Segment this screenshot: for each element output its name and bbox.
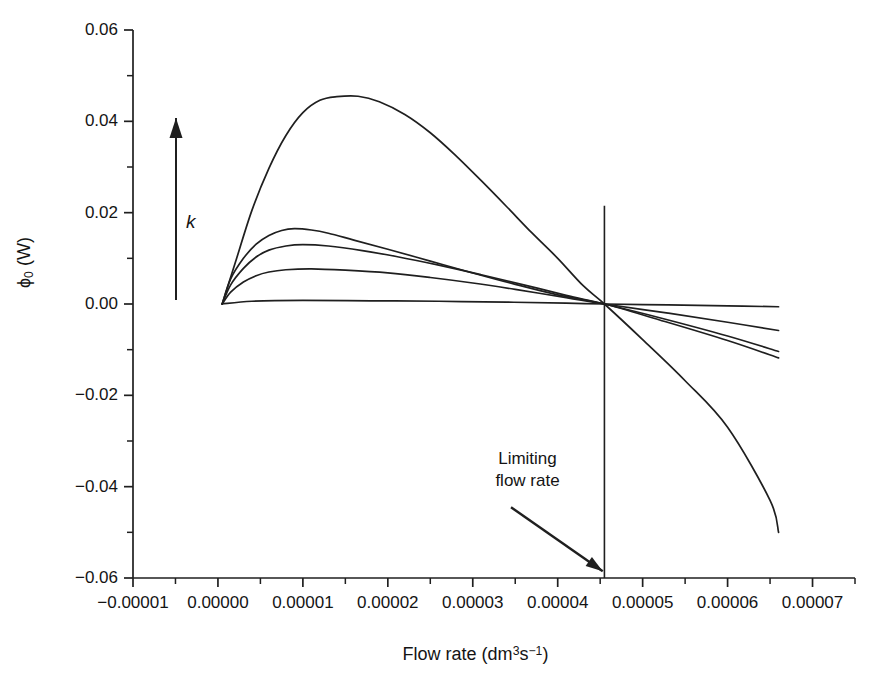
x-axis-label: Flow rate (dm3s−1): [0, 643, 873, 665]
x-axis-tick-label: 0.00001: [272, 593, 333, 613]
y-axis-label: ϕ0 (W): [14, 237, 36, 288]
y-axis-tick-label: −0.04: [0, 477, 118, 497]
data-line-k5: [222, 300, 778, 306]
y-axis-tick-label: 0.04: [0, 111, 118, 131]
limiting-flow-rate-arrow-head: [586, 557, 603, 571]
y-axis-label-symbol: ϕ: [14, 278, 34, 288]
data-line-k3: [222, 245, 778, 352]
y-axis-tick-label: 0.00: [0, 294, 118, 314]
x-axis-tick-label: 0.00002: [357, 593, 418, 613]
annotation-line-1: Limiting: [440, 448, 615, 470]
x-axis-tick-label: 0.00005: [612, 593, 673, 613]
limiting-flow-rate-annotation: Limiting flow rate: [440, 448, 615, 493]
x-axis-tick-label: 0.00007: [782, 593, 843, 613]
annotation-arrows: [170, 118, 603, 571]
y-axis-label-subscript: 0: [22, 271, 36, 278]
x-axis-label-text: Flow rate (dm: [403, 644, 513, 664]
y-axis-label-unit: (W): [14, 237, 34, 271]
y-axis-tick-label: −0.02: [0, 385, 118, 405]
k-direction-arrow-head: [170, 118, 183, 138]
x-axis-tick-label: 0.00003: [442, 593, 503, 613]
y-axis-tick-label: −0.06: [0, 568, 118, 588]
plot-canvas: [0, 0, 873, 691]
x-axis-tick-label: 0.00000: [187, 593, 248, 613]
x-axis-label-sup-minus1: −1: [528, 643, 542, 657]
y-axis-tick-label: 0.06: [0, 20, 118, 40]
chart-figure: ϕ0 (W) Flow rate (dm3s−1) k Limiting flo…: [0, 0, 873, 691]
x-axis-tick-label: 0.00004: [527, 593, 588, 613]
x-axis-tick-label: 0.00006: [697, 593, 758, 613]
k-arrow-label: k: [186, 211, 196, 233]
axes-group: [124, 30, 855, 587]
x-axis-tick-label: −0.00001: [97, 593, 168, 613]
x-axis-label-close-paren: ): [542, 644, 548, 664]
y-axis-tick-label: 0.02: [0, 203, 118, 223]
annotation-line-2: flow rate: [440, 470, 615, 492]
data-line-k2: [222, 229, 778, 358]
